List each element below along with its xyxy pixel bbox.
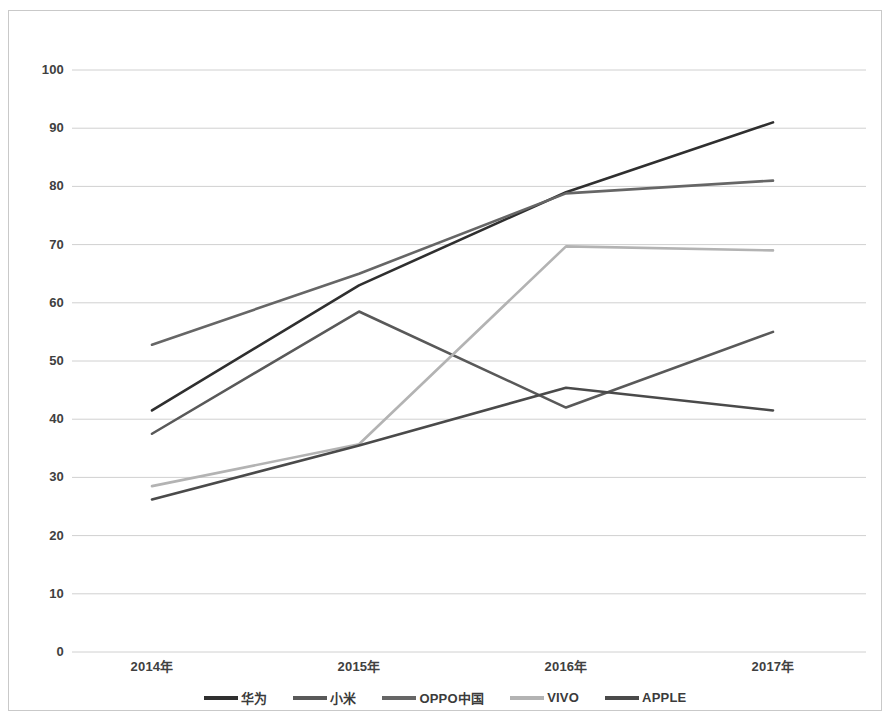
y-axis-tick-label: 70 [10, 237, 64, 252]
y-axis-tick-label: 20 [10, 528, 64, 543]
series-lines [152, 122, 773, 499]
chart-legend: 华为小米OPPO中国VIVOAPPLE [0, 688, 890, 707]
legend-item[interactable]: 华为 [204, 688, 267, 707]
legend-line-icon [204, 696, 238, 700]
y-axis-tick-label: 60 [10, 295, 64, 310]
y-axis-tick-label: 100 [10, 62, 64, 77]
x-axis-tick-label: 2014年 [92, 656, 212, 675]
series-line [152, 388, 773, 500]
x-axis-tick-label: 2017年 [713, 656, 833, 675]
legend-label: 华为 [241, 688, 267, 707]
series-line [152, 181, 773, 345]
legend-line-icon [605, 696, 639, 700]
gridlines [72, 70, 866, 652]
line-chart-plot [0, 0, 890, 721]
legend-item[interactable]: VIVO [510, 690, 579, 705]
y-axis-tick-label: 50 [10, 353, 64, 368]
x-axis-tick-label: 2015年 [299, 656, 419, 675]
legend-line-icon [293, 696, 327, 700]
legend-item[interactable]: OPPO中国 [382, 688, 484, 707]
y-axis-tick-label: 80 [10, 178, 64, 193]
y-axis-tick-label: 30 [10, 469, 64, 484]
legend-label: 小米 [330, 688, 356, 707]
y-axis-tick-label: 10 [10, 586, 64, 601]
legend-label: APPLE [642, 690, 686, 705]
y-axis-tick-label: 40 [10, 411, 64, 426]
chart-container: 1009080706050403020100 2014年2015年2016年20… [0, 0, 890, 721]
legend-label: VIVO [547, 690, 579, 705]
legend-item[interactable]: APPLE [605, 690, 686, 705]
legend-item[interactable]: 小米 [293, 688, 356, 707]
legend-label: OPPO中国 [419, 688, 484, 707]
legend-line-icon [382, 696, 416, 700]
y-axis-tick-label: 0 [10, 644, 64, 659]
legend-line-icon [510, 696, 544, 700]
y-axis-tick-label: 90 [10, 120, 64, 135]
x-axis-tick-label: 2016年 [506, 656, 626, 675]
